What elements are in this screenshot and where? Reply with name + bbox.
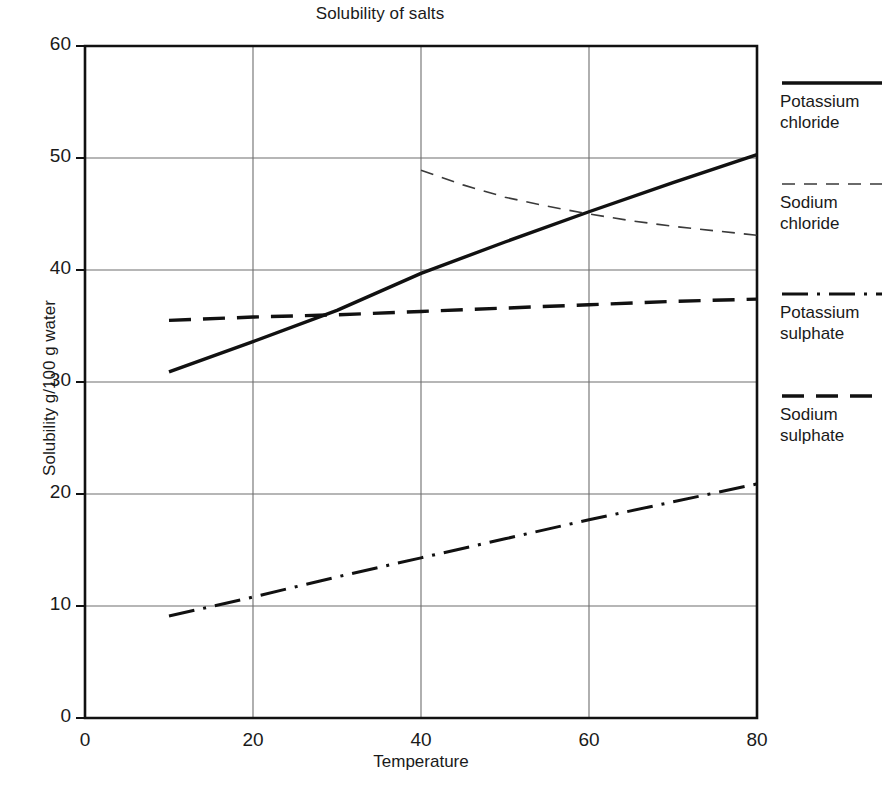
legend-label-line2: chloride — [780, 213, 892, 234]
x-tick-label: 60 — [559, 729, 619, 751]
legend-label-line2: sulphate — [780, 323, 892, 344]
legend-label: Sodiumsulphate — [780, 404, 892, 446]
legend-label-line1: Sodium — [780, 192, 892, 213]
plot-area — [0, 0, 892, 794]
legend-line-sample — [780, 390, 884, 402]
y-tick-label: 50 — [13, 145, 71, 167]
chart-figure: Solubility of salts 0102030405060 020406… — [0, 0, 892, 794]
data-series-line-1 — [169, 155, 757, 372]
x-tick-label: 40 — [391, 729, 451, 751]
legend-label-line2: chloride — [780, 112, 892, 133]
x-tick-label: 80 — [727, 729, 787, 751]
x-tick-label: 0 — [55, 729, 115, 751]
y-tick-label: 60 — [13, 33, 71, 55]
legend-label: Potassiumchloride — [780, 91, 892, 133]
legend-label-line1: Potassium — [780, 302, 892, 323]
legend-label: Sodiumchloride — [780, 192, 892, 234]
legend-line-sample — [780, 288, 884, 300]
legend-line-sample — [780, 77, 884, 89]
x-axis-title: Temperature — [85, 752, 757, 772]
y-axis-title: Solubility g/100 g water — [40, 178, 60, 598]
legend-label-line1: Potassium — [780, 91, 892, 112]
data-series-line-4 — [169, 299, 757, 320]
data-series-line-3 — [169, 484, 757, 616]
legend-label: Potassiumsulphate — [780, 302, 892, 344]
x-tick-label: 20 — [223, 729, 283, 751]
legend-label-line2: sulphate — [780, 425, 892, 446]
legend-line-sample — [780, 178, 884, 190]
y-tick-label: 0 — [13, 705, 71, 727]
legend-label-line1: Sodium — [780, 404, 892, 425]
